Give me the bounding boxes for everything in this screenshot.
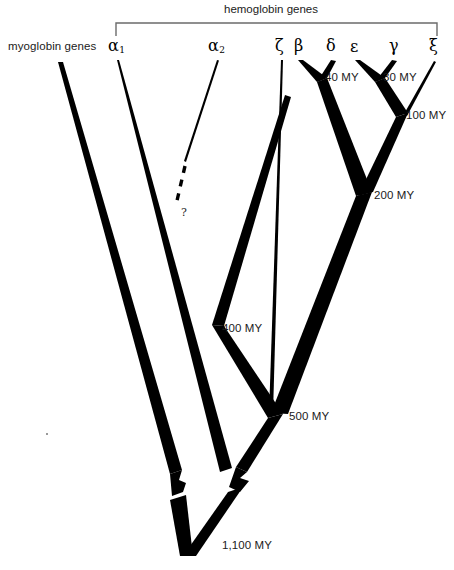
tip-sub-alpha1: 1 <box>119 45 125 55</box>
tip-label-xi: ξ <box>429 38 438 54</box>
tip-label-epsilon: ε <box>350 39 358 55</box>
branch-30-to-100 <box>375 78 408 117</box>
branch-alpha2 <box>184 60 219 162</box>
tip-glyph-alpha2: α <box>208 36 219 55</box>
tip-sub-alpha2: 2 <box>219 45 225 55</box>
tip-label-delta: δ <box>326 38 336 54</box>
tip-label-zeta: ζ <box>275 38 284 54</box>
tip-label-alpha2: α2 <box>208 38 225 55</box>
node-label-400my: 400 MY <box>222 323 262 335</box>
branch-myoglobin <box>58 62 193 556</box>
branch-zeta <box>269 60 283 414</box>
branch-alpha1 <box>117 60 232 472</box>
node-label-100my: 100 MY <box>406 110 446 122</box>
scan-speck <box>46 433 48 435</box>
node-label-200my: 200 MY <box>374 190 414 202</box>
tip-glyph-alpha1: α <box>108 36 119 55</box>
branch-100-to-200 <box>358 113 408 196</box>
branch-200-to-500 <box>271 192 372 414</box>
node-label-30my: 30 MY <box>383 72 417 84</box>
hemoglobin-bracket <box>116 23 437 36</box>
branch-500-to-root <box>183 414 283 556</box>
node-label-40my: 40 MY <box>325 72 359 84</box>
hemoglobin-bracket-label: hemoglobin genes <box>224 4 318 16</box>
node-label-1100my: 1,100 MY <box>222 540 272 552</box>
figure-canvas: hemoglobin genes myoglobin genes α1 α2 ζ… <box>0 0 454 570</box>
tip-label-alpha1: α1 <box>108 38 125 55</box>
node-label-500my: 500 MY <box>289 411 329 423</box>
tip-label-gamma: γ <box>389 38 399 54</box>
branch-40-to-200 <box>317 78 372 196</box>
myoglobin-genes-label: myoglobin genes <box>8 41 96 53</box>
branch-xi <box>404 61 436 116</box>
phylogenetic-tree-graphic <box>0 0 454 570</box>
branch-alpha2-uncertain-dashed <box>176 166 185 205</box>
tip-label-beta: β <box>294 38 303 54</box>
uncertainty-question-mark: ? <box>181 207 187 218</box>
